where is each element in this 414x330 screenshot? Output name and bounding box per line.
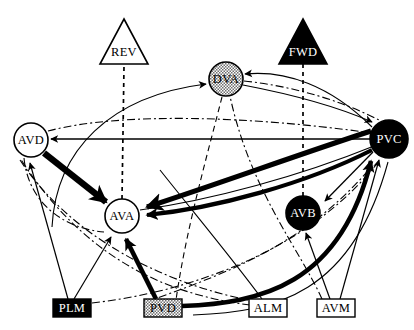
alm-label: ALM <box>254 301 283 315</box>
node-plm[interactable]: PLM <box>53 299 91 317</box>
node-rev[interactable]: REV <box>100 19 148 64</box>
node-alm[interactable]: ALM <box>249 299 287 317</box>
edge-layer <box>20 63 388 315</box>
edge-alm-ava <box>160 170 262 299</box>
edge-avd-ava-thick <box>44 153 106 202</box>
node-dva[interactable]: DVA <box>209 62 243 96</box>
pvd-label: PVD <box>150 301 176 315</box>
ava-label: AVA <box>110 209 135 223</box>
edge-alm-avd-gap <box>20 158 250 305</box>
avm-label: AVM <box>322 301 350 315</box>
edge-plm-ava <box>74 237 111 299</box>
edge-ava-rev <box>122 66 124 199</box>
node-pvc[interactable]: PVC <box>370 120 408 158</box>
edge-dva-pvc <box>243 85 372 122</box>
fwd-label: FWD <box>289 45 318 59</box>
avd-label: AVD <box>18 133 44 147</box>
avb-label: AVB <box>290 206 316 220</box>
edge-avd-mid-gap <box>20 160 248 300</box>
node-fwd[interactable]: FWD <box>279 19 327 64</box>
pvc-label: PVC <box>376 132 401 146</box>
node-avb[interactable]: AVB <box>286 196 320 230</box>
rev-label: REV <box>111 45 137 59</box>
node-ava[interactable]: AVA <box>105 199 139 233</box>
plm-label: PLM <box>59 301 86 315</box>
edge-plm-avd <box>30 163 68 299</box>
circuit-svg: REV FWD DVA AVD PVC AVA AVB PLM PVD <box>0 0 414 330</box>
node-avd[interactable]: AVD <box>14 123 48 157</box>
circuit-diagram: REV FWD DVA AVD PVC AVA AVB PLM PVD <box>0 0 414 330</box>
dva-label: DVA <box>213 72 239 86</box>
node-avm[interactable]: AVM <box>317 299 355 317</box>
edge-plm-pvc-gap <box>92 161 379 303</box>
node-pvd[interactable]: PVD <box>144 299 182 317</box>
edge-pvd-ava <box>126 239 156 299</box>
edge-pvc-avd-gap <box>48 118 372 133</box>
